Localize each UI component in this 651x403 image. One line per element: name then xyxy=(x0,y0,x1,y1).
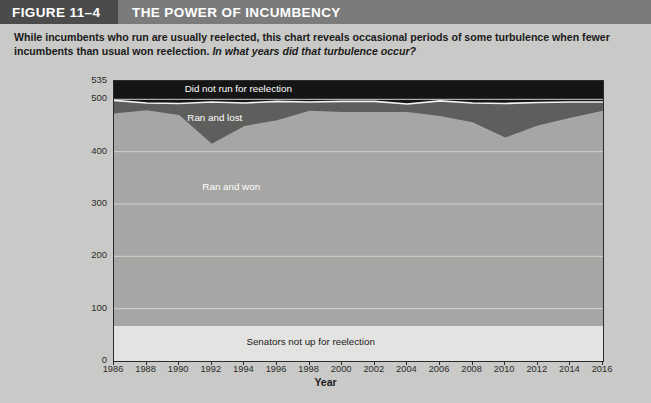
y-axis-label-500: 500 xyxy=(65,93,107,103)
x-axis-tick-1994 xyxy=(243,361,244,365)
series-label-did-not-run: Did not run for reelection xyxy=(185,83,292,94)
figure-number: FIGURE 11–4 xyxy=(0,0,118,24)
x-axis-label-2016: 2016 xyxy=(582,364,622,374)
figure-title: THE POWER OF INCUMBENCY xyxy=(118,0,651,24)
y-axis-label-535: 535 xyxy=(65,75,107,85)
figure-page: FIGURE 11–4 THE POWER OF INCUMBENCY Whil… xyxy=(0,0,651,403)
area-series-ran-and-won xyxy=(114,110,603,326)
x-axis-tick-2008 xyxy=(472,361,473,365)
y-axis-label-300: 300 xyxy=(65,198,107,208)
x-axis-tick-2012 xyxy=(537,361,538,365)
series-label-ran-and-lost: Ran and lost xyxy=(187,112,242,123)
x-axis-tick-2006 xyxy=(439,361,440,365)
y-axis-label-100: 100 xyxy=(65,303,107,313)
chart-container: 535 500 400 300 200 100 0 19861988199019… xyxy=(0,72,651,382)
x-axis-tick-2010 xyxy=(504,361,505,365)
series-label-not-up-for-reelection: Senators not up for reelection xyxy=(246,336,375,347)
x-axis-tick-1988 xyxy=(146,361,147,365)
figure-caption: While incumbents who run are usually ree… xyxy=(14,30,636,59)
x-axis-title: Year xyxy=(0,376,651,388)
series-label-ran-and-won: Ran and won xyxy=(202,181,260,192)
caption-question: In what years did that turbulence occur? xyxy=(212,45,416,57)
y-axis-label-400: 400 xyxy=(65,146,107,156)
x-axis-tick-1986 xyxy=(113,361,114,365)
x-axis-tick-2004 xyxy=(406,361,407,365)
x-axis-tick-2014 xyxy=(569,361,570,365)
x-axis-tick-2016 xyxy=(602,361,603,365)
x-axis-tick-2000 xyxy=(341,361,342,365)
x-axis-tick-1990 xyxy=(178,361,179,365)
x-axis-tick-1998 xyxy=(309,361,310,365)
y-axis-label-200: 200 xyxy=(65,250,107,260)
x-axis-tick-1992 xyxy=(211,361,212,365)
x-axis-tick-2002 xyxy=(374,361,375,365)
x-axis-tick-1996 xyxy=(276,361,277,365)
figure-header: FIGURE 11–4 THE POWER OF INCUMBENCY xyxy=(0,0,651,24)
